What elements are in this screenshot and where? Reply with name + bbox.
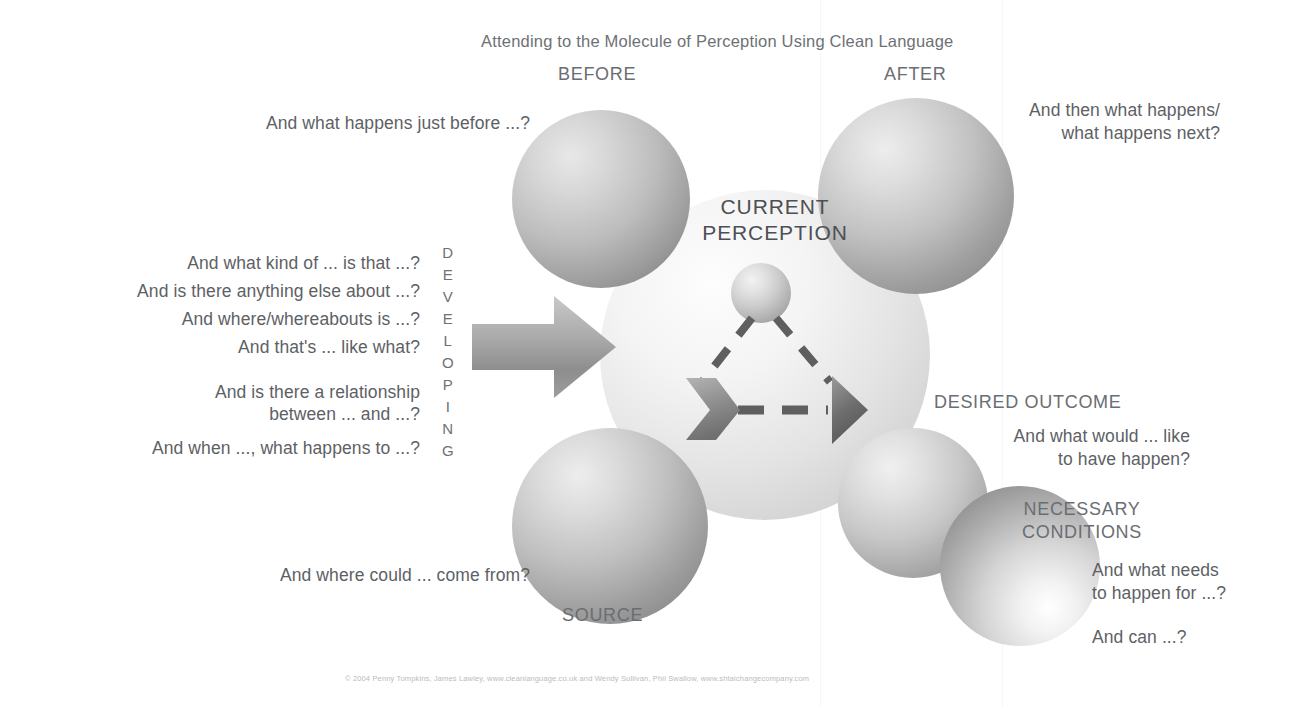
question-after-line1: And then what happens/ [930, 99, 1220, 122]
axis-letter: I [437, 396, 459, 418]
question-before: And what happens just before ...? [130, 112, 530, 135]
question-developing-5-line2: between ... and ...? [30, 403, 420, 426]
label-current-perception-line1: CURRENT [670, 194, 880, 220]
question-necessary-line1: And what needs [1092, 559, 1219, 582]
axis-letter: E [437, 264, 459, 286]
question-necessary-line3: And can ...? [1092, 626, 1187, 649]
scan-seam [820, 0, 821, 707]
copyright-footer: © 2004 Penny Tompkins, James Lawley, www… [345, 674, 809, 684]
question-developing-4: And that's ... like what? [30, 336, 420, 359]
label-current-perception-line2: PERCEPTION [670, 220, 880, 246]
axis-letter: L [437, 330, 459, 352]
question-source: And where could ... come from? [150, 564, 530, 587]
question-developing-1: And what kind of ... is that ...? [30, 252, 420, 275]
question-desired-line1: And what would ... like [910, 425, 1190, 448]
sphere-before [512, 110, 690, 288]
label-desired-outcome: DESIRED OUTCOME [934, 391, 1122, 415]
perception-triangle-icon [640, 250, 890, 450]
axis-letter: E [437, 308, 459, 330]
label-necessary-conditions-line1: NECESSARY [1002, 498, 1162, 522]
developing-arrow-icon [470, 292, 620, 402]
label-before: BEFORE [558, 63, 636, 87]
label-after: AFTER [884, 63, 947, 87]
label-necessary-conditions-line2: CONDITIONS [1002, 521, 1162, 545]
question-developing-2: And is there anything else about ...? [30, 280, 420, 303]
axis-letter: P [437, 374, 459, 396]
axis-letter: V [437, 286, 459, 308]
question-developing-6: And when ..., what happens to ...? [30, 437, 420, 460]
label-source: SOURCE [562, 604, 643, 628]
axis-letter: G [437, 440, 459, 462]
axis-developing: D E V E L O P I N G [437, 242, 459, 462]
question-after-line2: what happens next? [930, 122, 1220, 145]
sphere-source [512, 428, 708, 624]
axis-letter: N [437, 418, 459, 440]
question-developing-5-line1: And is there a relationship [30, 381, 420, 404]
sphere-current-perception-small [731, 263, 791, 323]
question-developing-3: And where/whereabouts is ...? [30, 308, 420, 331]
question-desired-line2: to have happen? [910, 448, 1190, 471]
question-necessary-line2: to happen for ...? [1092, 582, 1226, 605]
diagram-canvas: Attending to the Molecule of Perception … [0, 0, 1314, 707]
axis-letter: D [437, 242, 459, 264]
page-title: Attending to the Molecule of Perception … [481, 31, 953, 53]
axis-letter: O [437, 352, 459, 374]
